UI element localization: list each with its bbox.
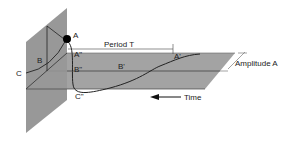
label-B-prime: B" (74, 65, 82, 74)
label-B-curve: B' (118, 62, 125, 71)
label-C-prime: C" (75, 92, 84, 101)
wave-diagram: A B C A" B" C" B' A' Period T Amplitude … (0, 0, 296, 142)
label-period: Period T (104, 40, 134, 49)
time-arrow-icon (150, 94, 159, 100)
point-A (63, 35, 71, 43)
label-A: A (73, 31, 79, 40)
label-amplitude: Amplitude A (235, 59, 278, 68)
label-C: C (16, 69, 22, 78)
label-B: B (37, 56, 42, 65)
label-A-prime: A" (74, 50, 82, 59)
label-time: Time (184, 93, 202, 102)
label-A-end: A' (174, 52, 181, 61)
vertical-plane (26, 8, 67, 133)
